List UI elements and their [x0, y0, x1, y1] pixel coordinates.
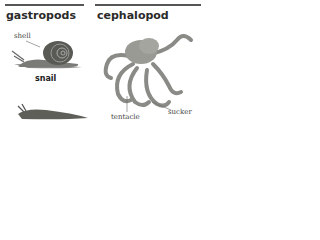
tentacle-label: tentacle — [111, 113, 140, 121]
sucker-label: sucker — [168, 108, 192, 116]
